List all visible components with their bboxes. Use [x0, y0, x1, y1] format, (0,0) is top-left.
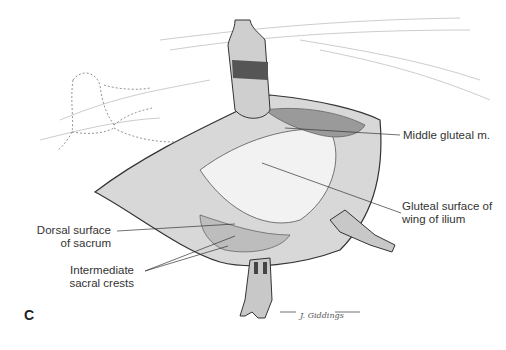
- anatomical-illustration: [0, 0, 506, 350]
- label-dorsal-surface-line2: of sacrum: [61, 237, 112, 250]
- artist-signature: J. Giddings: [300, 311, 344, 320]
- label-dorsal-surface-line1: Dorsal surface: [37, 224, 111, 237]
- label-intermediate-line1: Intermediate: [70, 264, 134, 277]
- panel-letter: C: [24, 307, 34, 323]
- retractor-tooth: [254, 262, 258, 274]
- dotted-outline: [58, 73, 190, 150]
- label-middle-gluteal: Middle gluteal m.: [403, 129, 490, 142]
- label-gluteal-surface-line1: Gluteal surface of: [402, 200, 492, 213]
- label-intermediate-line2: sacral crests: [69, 277, 134, 290]
- label-gluteal-surface-line2: wing of ilium: [402, 213, 465, 226]
- retractor-tooth: [263, 262, 267, 274]
- retractor-shadow: [232, 60, 268, 80]
